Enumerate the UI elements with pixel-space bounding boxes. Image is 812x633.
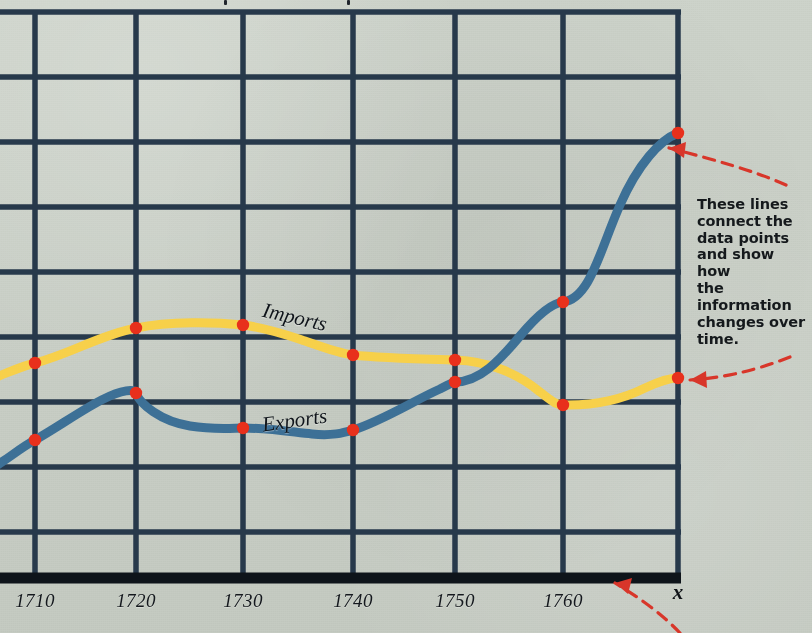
x-axis-variable-label: x bbox=[673, 580, 684, 605]
exports-data-point bbox=[29, 434, 41, 446]
callout-arrowheads bbox=[615, 142, 707, 594]
x-tick-label-1740: 1740 bbox=[333, 590, 373, 612]
exports-data-point bbox=[672, 127, 684, 139]
imports-data-point bbox=[672, 372, 684, 384]
callout-line: connect the bbox=[697, 213, 809, 230]
x-tick-label-1750: 1750 bbox=[435, 590, 475, 612]
exports-data-point bbox=[130, 387, 142, 399]
exports-data-point bbox=[237, 422, 249, 434]
x-tick-label-1730: 1730 bbox=[223, 590, 263, 612]
callout-text: These linesconnect thedata pointsand sho… bbox=[697, 196, 809, 347]
exports-line bbox=[0, 133, 678, 472]
imports-data-point bbox=[29, 357, 41, 369]
exports-data-point bbox=[557, 296, 569, 308]
imports-data-point bbox=[449, 354, 461, 366]
callout-line: changes over bbox=[697, 314, 809, 331]
imports-data-point bbox=[557, 399, 569, 411]
x-tick-label-1710: 1710 bbox=[15, 590, 55, 612]
callout-line: time. bbox=[697, 331, 809, 348]
imports-data-point bbox=[347, 349, 359, 361]
callout-line: and show how bbox=[697, 246, 809, 280]
callout-line: data points bbox=[697, 230, 809, 247]
imports-data-point bbox=[130, 322, 142, 334]
exports-data-point bbox=[449, 376, 461, 388]
callout-line: the information bbox=[697, 280, 809, 314]
callout-line: These lines bbox=[697, 196, 809, 213]
x-tick-label-1760: 1760 bbox=[543, 590, 583, 612]
horizontal-gridlines bbox=[0, 12, 681, 532]
x-tick-label-1720: 1720 bbox=[116, 590, 156, 612]
exports-data-point bbox=[347, 424, 359, 436]
line-chart bbox=[0, 0, 812, 633]
imports-data-point bbox=[237, 319, 249, 331]
